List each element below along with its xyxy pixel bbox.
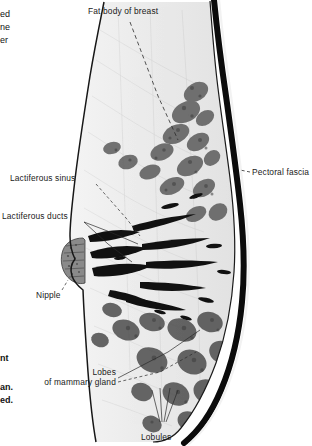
edge-fragment-top-3: er (0, 34, 8, 47)
label-lactiferous-sinus: Lactiferous sinus (10, 173, 75, 183)
label-pectoral-fascia: Pectoral fascia (252, 167, 309, 177)
edge-fragment-top-2: ne (0, 21, 10, 34)
label-fat-body-of-breast: Fat body of breast (88, 6, 158, 16)
label-nipple: Nipple (36, 290, 61, 300)
edge-fragment-top-1: ed (0, 8, 10, 21)
label-lactiferous-ducts: Lactiferous ducts (2, 211, 68, 221)
edge-fragment-bottom-1: nt (0, 352, 9, 365)
label-lobules: Lobules (141, 432, 171, 442)
label-lobes-line1: Lobes (18, 367, 116, 377)
anatomical-figure: Fat body of breast Pectoral fascia Lacti… (0, 0, 312, 446)
edge-fragment-bottom-2: an. (0, 381, 13, 394)
label-lobes-line2: of mammary gland (2, 377, 116, 387)
edge-fragment-bottom-3: ed. (0, 394, 13, 407)
leader-nipple (62, 280, 68, 290)
